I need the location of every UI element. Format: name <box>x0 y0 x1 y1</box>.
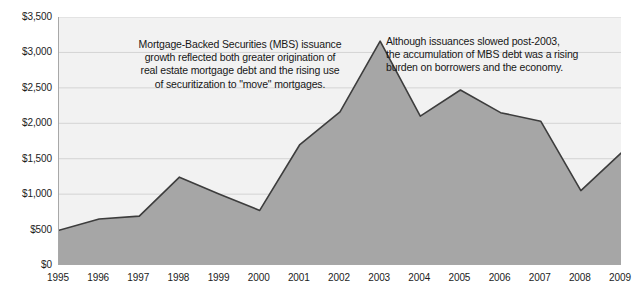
x-tick-label: 2005 <box>439 272 479 283</box>
y-axis: $0$500$1,000$1,500$2,000$2,500$3,000$3,5… <box>0 0 52 298</box>
y-tick-label: $3,500 <box>0 12 52 22</box>
annotation-mbs-growth: Mortgage-Backed Securities (MBS) issuanc… <box>121 38 359 91</box>
x-tick-label: 1997 <box>118 272 158 283</box>
y-tick-label: $1,500 <box>0 154 52 164</box>
x-tick-label: 1999 <box>199 272 239 283</box>
x-tick-label: 2001 <box>279 272 319 283</box>
x-axis: 1995199619971998199920002001200220032004… <box>0 272 636 292</box>
y-tick-label: $2,000 <box>0 118 52 128</box>
x-tick-label: 1995 <box>38 272 78 283</box>
x-tick-label: 2004 <box>399 272 439 283</box>
x-tick-label: 2000 <box>239 272 279 283</box>
mbs-issuance-area-chart: $0$500$1,000$1,500$2,000$2,500$3,000$3,5… <box>0 0 636 298</box>
x-tick-label: 1996 <box>78 272 118 283</box>
x-tick-label: 2002 <box>319 272 359 283</box>
y-tick-label: $500 <box>0 225 52 235</box>
x-tick-label: 1998 <box>158 272 198 283</box>
x-tick-label: 2006 <box>480 272 520 283</box>
x-tick-label: 2008 <box>560 272 600 283</box>
y-tick-label: $0 <box>0 260 52 270</box>
annotation-post-2003: Although issuances slowed post-2003, the… <box>386 35 616 75</box>
y-tick-label: $3,000 <box>0 47 52 57</box>
y-tick-label: $2,500 <box>0 83 52 93</box>
x-tick-label: 2003 <box>359 272 399 283</box>
x-tick-label: 2009 <box>600 272 636 283</box>
x-tick-label: 2007 <box>520 272 560 283</box>
y-tick-label: $1,000 <box>0 189 52 199</box>
